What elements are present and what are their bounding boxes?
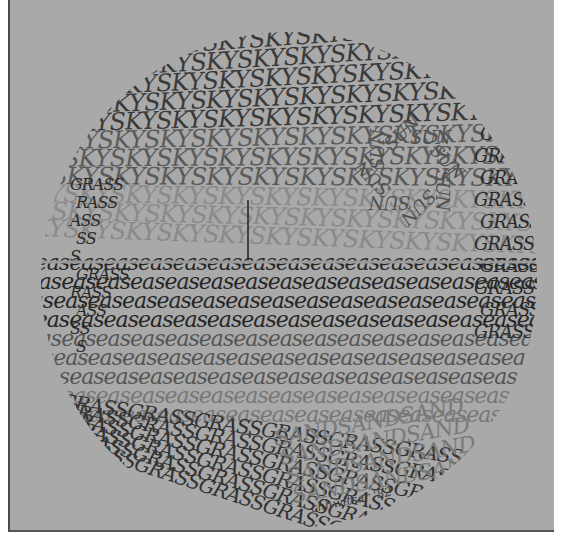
grass-right-column: GRASS xyxy=(474,145,535,166)
grass-right-column: GRASS xyxy=(474,189,535,210)
grass-left-column: ASS xyxy=(74,301,107,320)
word-rows: SKYSKYSKYSKYSKYSKYSKYSKYSKYSKYSKYSKYSKYS… xyxy=(10,0,554,532)
grass-right-column: GRASS xyxy=(480,299,541,320)
grass-left-column: GRASS xyxy=(76,265,130,284)
artwork-frame: SKYSKYSKYSKYSKYSKYSKYSKYSKYSKYSKYSKYSKYS… xyxy=(8,0,554,532)
grass-right-column: GRASS xyxy=(474,321,535,342)
calligram-circle: SKYSKYSKYSKYSKYSKYSKYSKYSKYSKYSKYSKYSKYS… xyxy=(10,0,554,532)
grass-left-column: S xyxy=(76,337,87,356)
grass-left-column: RASS xyxy=(69,283,112,302)
grass-left-column: GRASS xyxy=(70,175,124,194)
grass-left-column: SS xyxy=(76,229,97,248)
grass-right-column: GRASS xyxy=(480,211,541,232)
grass-right-column: GRASS xyxy=(480,167,541,188)
grass-right-column: GRASS xyxy=(480,255,541,276)
grass-left-column: ASS xyxy=(68,211,101,230)
grass-left-column: SS xyxy=(70,319,91,338)
grass-right-column: GRASS xyxy=(474,277,535,298)
grass-right-column: GRASS xyxy=(474,233,535,254)
grass-right-column: GRASS xyxy=(480,123,541,144)
grass-left-column: RASS xyxy=(75,193,118,212)
